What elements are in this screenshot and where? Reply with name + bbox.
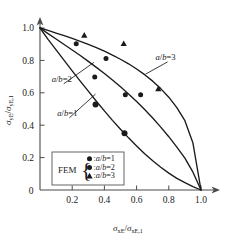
x-tick-label: 0.4 [98,195,110,205]
chart-background [0,0,241,243]
annotation-label-0: a/b=3 [156,52,176,62]
y-tick-label: 0.8 [22,56,34,66]
legend-entries: :a/b=1:a/b=2:a/b=3 [86,154,115,180]
legend-marker-1 [87,165,92,170]
y-tick-label: 1.0 [22,23,34,33]
data-point-FEMab2 [74,41,79,46]
data-point-FEMab2 [138,92,143,97]
y-tick-label: 0.6 [22,88,34,98]
y-title-sub2: yE,1 [7,95,14,107]
legend: FEM { :a/b=1:a/b=2:a/b=3 [52,152,124,185]
data-point-FEMab1 [122,130,128,136]
x-tick-label: 0.8 [163,195,175,205]
data-point-FEMab2 [123,92,128,97]
y-tick-label: 0.4 [22,121,34,131]
legend-marker-0 [87,156,92,161]
chart-svg: 00.20.40.60.81.0 0.20.40.60.81.0 a/b=3a/… [0,0,241,243]
x-tick-label: 0 [29,186,34,196]
legend-entry-label-2: :a/b=3 [94,171,115,180]
data-point-FEMab2 [104,56,109,61]
x-tick-label: 1.0 [195,195,207,205]
y-tick-label: 0.2 [22,153,34,163]
x-tick-label: 0.2 [66,195,78,205]
annotation-label-1: a/b=2 [52,74,72,84]
data-point-FEMab2 [92,74,97,79]
data-point-FEMab1 [93,101,99,107]
x-tick-label: 0.6 [131,195,143,205]
annotation-label-2: a/b=1 [57,108,77,118]
x-title-sub2: xE,1 [131,227,143,234]
legend-title: FEM [58,165,77,175]
chart-figure: 00.20.40.60.81.0 0.20.40.60.81.0 a/b=3a/… [0,0,241,243]
